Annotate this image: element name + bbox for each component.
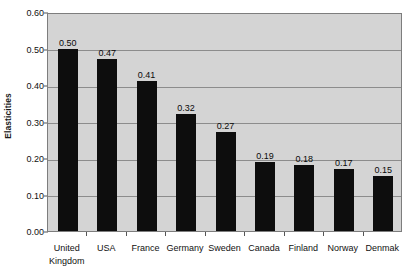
- bar: [58, 49, 78, 232]
- y-axis-tick-label: 0.20: [16, 154, 44, 164]
- bar-value-label: 0.18: [284, 154, 324, 164]
- x-axis-tick-mark: [284, 232, 285, 236]
- x-axis-tick-mark: [86, 232, 87, 236]
- y-axis-tick-label: 0.00: [16, 227, 44, 237]
- bar: [176, 114, 196, 231]
- x-axis-tick-mark: [363, 232, 364, 236]
- bar: [373, 176, 393, 231]
- bar: [294, 165, 314, 231]
- y-axis-tick-label: 0.10: [16, 191, 44, 201]
- bar-value-label: 0.15: [363, 165, 403, 175]
- x-axis-category-label: Denmak: [352, 242, 412, 255]
- bar-value-label: 0.19: [245, 151, 285, 161]
- bar: [216, 132, 236, 231]
- bar: [97, 59, 117, 231]
- bar-value-label: 0.32: [166, 103, 206, 113]
- x-axis-tick-mark: [126, 232, 127, 236]
- bar: [334, 169, 354, 231]
- bar-value-label: 0.47: [87, 48, 127, 58]
- y-axis-tick-label: 0.40: [16, 81, 44, 91]
- bar-value-label: 0.27: [206, 121, 246, 131]
- x-axis-tick-mark: [205, 232, 206, 236]
- bar: [137, 81, 157, 231]
- bar-chart: Elasticities 0.000.100.200.300.400.500.6…: [0, 0, 412, 275]
- x-axis-tick-mark: [165, 232, 166, 236]
- bar-value-label: 0.17: [324, 158, 364, 168]
- y-axis-tick-label: 0.60: [16, 8, 44, 18]
- y-axis-tick-label: 0.30: [16, 118, 44, 128]
- y-axis-ticks: 0.000.100.200.300.400.500.60: [12, 0, 44, 275]
- bar-value-label: 0.50: [48, 38, 88, 48]
- x-axis-tick-mark: [244, 232, 245, 236]
- bar: [255, 162, 275, 231]
- plot-area: 0.500.470.410.320.270.190.180.170.15: [47, 13, 402, 232]
- y-axis-tick-label: 0.50: [16, 45, 44, 55]
- x-axis-tick-mark: [323, 232, 324, 236]
- x-axis: United KingdomUSAFranceGermanySwedenCana…: [47, 232, 402, 275]
- bar-value-label: 0.41: [127, 70, 167, 80]
